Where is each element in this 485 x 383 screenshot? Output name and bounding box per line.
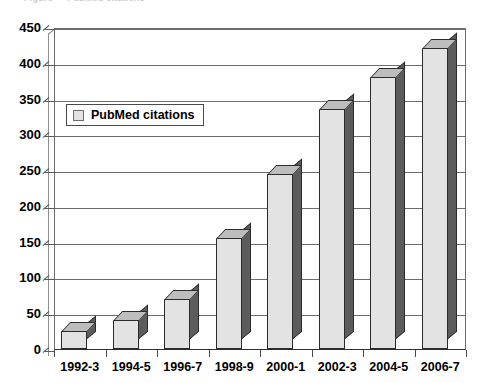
bar-side-face-1994-5 (139, 305, 148, 339)
bar-2000-1 (267, 174, 293, 349)
y-axis-label-300: 300 (0, 127, 41, 142)
x-axis: 1992-31994-51996-71998-92000-12002-32004… (54, 350, 466, 383)
bar-slot-1998-9 (210, 29, 262, 349)
bar-slot-2000-1 (261, 29, 313, 349)
bar-slot-1996-7 (158, 29, 210, 349)
chart-legend: PubMed citations (66, 104, 204, 126)
y-tick-mark-350 (44, 101, 55, 102)
y-tick-mark-250 (44, 172, 55, 173)
bar-slot-1994-5 (107, 29, 159, 349)
y-tick-mark-150 (44, 244, 55, 245)
bar-2006-7 (422, 48, 448, 349)
y-axis-label-100: 100 (0, 270, 41, 285)
x-axis-label-2006-7: 2006-7 (421, 360, 460, 374)
y-tick-mark-300 (44, 136, 55, 137)
x-tick-mark-origin (54, 350, 55, 357)
bar-side-face-2002-3 (345, 94, 354, 339)
y-axis-label-150: 150 (0, 235, 41, 250)
bar-series-pubmed-citations (55, 29, 465, 349)
bar-slot-2006-7 (416, 29, 468, 349)
y-axis-label-400: 400 (0, 56, 41, 71)
plot-area: 050100150200250300350400450 (54, 28, 466, 350)
y-axis-label-250: 250 (0, 163, 41, 178)
x-axis-label-2004-5: 2004-5 (369, 360, 408, 374)
bar-slot-2002-3 (313, 29, 365, 349)
bar-side-face-2004-5 (396, 62, 405, 339)
y-tick-mark-400 (44, 65, 55, 66)
x-tick-mark-1992-3 (106, 350, 107, 357)
x-axis-label-1992-3: 1992-3 (60, 360, 99, 374)
bar-chart-figure: Figure — PubMed citations 05010015020025… (0, 0, 485, 383)
bar-slot-2004-5 (364, 29, 416, 349)
y-tick-mark-450 (44, 29, 55, 30)
bar-slot-1992-3 (55, 29, 107, 349)
y-axis-label-450: 450 (0, 20, 41, 35)
bar-side-face-1998-9 (242, 223, 251, 339)
bar-2002-3 (319, 109, 345, 349)
bar-side-face-2000-1 (293, 158, 302, 339)
x-axis-label-2002-3: 2002-3 (318, 360, 357, 374)
y-tick-mark-200 (44, 208, 55, 209)
x-axis-label-2000-1: 2000-1 (266, 360, 305, 374)
depth-axis-line (48, 34, 49, 356)
depth-axis-top-connector (48, 30, 54, 35)
y-axis-label-0: 0 (0, 342, 41, 357)
legend-label-pubmed-citations: PubMed citations (91, 108, 194, 122)
bar-1998-9 (216, 238, 242, 349)
x-axis-label-1996-7: 1996-7 (163, 360, 202, 374)
x-tick-mark-2006-7 (466, 350, 467, 357)
clipped-caption-fragment: Figure — PubMed citations (24, 0, 224, 3)
legend-swatch-pubmed-citations (73, 110, 84, 121)
x-axis-label-1998-9: 1998-9 (215, 360, 254, 374)
bar-1996-7 (164, 299, 190, 349)
x-tick-mark-1994-5 (157, 350, 158, 357)
x-tick-mark-1998-9 (260, 350, 261, 357)
y-tick-mark-50 (44, 315, 55, 316)
y-axis-label-200: 200 (0, 199, 41, 214)
y-axis-label-350: 350 (0, 92, 41, 107)
y-axis-label-50: 50 (0, 306, 41, 321)
bar-2004-5 (370, 77, 396, 349)
bar-1994-5 (113, 320, 139, 349)
x-tick-mark-2000-1 (312, 350, 313, 357)
x-tick-mark-1996-7 (209, 350, 210, 357)
x-tick-mark-2002-3 (363, 350, 364, 357)
bar-1992-3 (61, 331, 87, 349)
x-tick-mark-2004-5 (415, 350, 416, 357)
y-tick-depth-mark-450 (43, 25, 50, 31)
y-tick-mark-100 (44, 279, 55, 280)
x-axis-label-1994-5: 1994-5 (112, 360, 151, 374)
bar-side-face-2006-7 (448, 33, 457, 339)
